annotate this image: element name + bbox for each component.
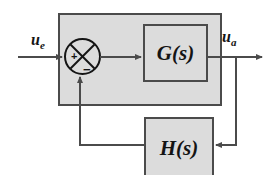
input-signal-base: u — [31, 31, 40, 48]
output-signal-base: u — [222, 28, 231, 45]
output-signal-subscript: a — [231, 36, 237, 48]
summing-junction-plus-sign: + — [71, 51, 77, 62]
input-signal-label: ue — [31, 32, 45, 51]
feedback-takeoff-wire — [216, 57, 236, 145]
feedback-return-wire — [80, 77, 144, 145]
summing-junction-minus-sign: − — [83, 63, 91, 76]
block-diagram-canvas: G(s) H(s) + − ue ua — [0, 0, 268, 175]
input-signal-subscript: e — [40, 39, 45, 51]
wires-layer — [0, 0, 268, 175]
output-signal-label: ua — [222, 29, 236, 48]
